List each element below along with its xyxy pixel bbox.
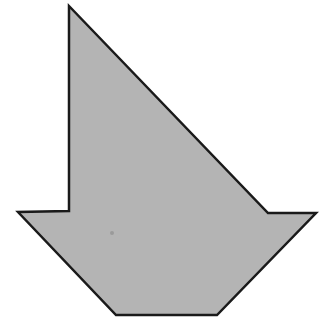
diagram-canvas	[0, 0, 331, 333]
speck-mark	[110, 231, 114, 235]
shape-svg	[0, 0, 331, 333]
down-arrow-polygon	[18, 6, 316, 315]
